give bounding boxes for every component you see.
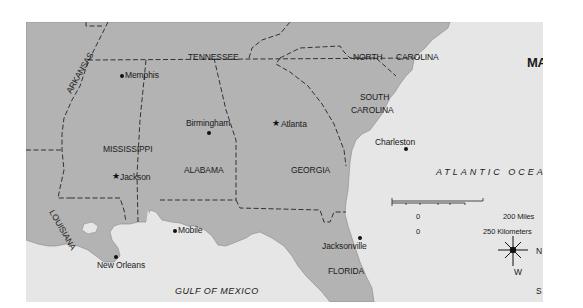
state-label-florida: FLORIDA (328, 266, 364, 276)
city-label-jackson: Jackson (120, 172, 150, 182)
scale-miles-start: 0 (416, 212, 420, 221)
scale-miles-end: 200 Miles (503, 212, 534, 221)
compass-south-label: S (536, 286, 542, 296)
scale-km-start: 0 (416, 227, 420, 236)
state-label-tennessee: TENNESSEE (188, 52, 239, 62)
water-label-gulf-of-mexico: GULF OF MEXICO (175, 286, 259, 296)
state-label-south-carolina-line2: CAROLINA (351, 105, 394, 115)
map-title: MAP B (527, 55, 543, 70)
city-marker-birmingham (207, 131, 211, 135)
capital-star-icon-jackson: ★ (112, 172, 120, 181)
scale-km-end: 250 Kilometers (483, 227, 532, 236)
state-label-north-carolina-line2: CAROLINA (396, 52, 439, 62)
map-frame: MAP B TENNESSEE NORTH CAROLINA ARKANSAS … (26, 22, 543, 302)
city-label-new-orleans: New Orleans (97, 260, 145, 270)
state-label-mississippi: MISSISSIPPI (103, 144, 152, 154)
city-marker-memphis (120, 74, 124, 78)
state-label-georgia: GEORGIA (291, 165, 330, 175)
city-label-memphis: Memphis (125, 70, 159, 80)
state-label-south-carolina-line1: SOUTH (360, 92, 389, 102)
state-label-north-carolina-line1: NORTH (353, 52, 383, 62)
scale-bar (392, 198, 483, 206)
city-label-jacksonville: Jacksonville (322, 241, 367, 251)
water-label-atlantic-ocean: ATLANTIC OCEAN (436, 167, 543, 177)
state-label-alabama: ALABAMA (184, 165, 223, 175)
city-label-atlanta: Atlanta (281, 119, 307, 129)
compass-rose (498, 236, 528, 266)
city-marker-new-orleans (114, 255, 118, 259)
city-label-mobile: Mobile (178, 225, 202, 235)
compass-north-label: N (536, 246, 542, 256)
city-marker-charleston (404, 147, 408, 151)
city-marker-jacksonville (358, 236, 362, 240)
city-marker-mobile (173, 229, 177, 233)
compass-west-label: W (514, 267, 522, 277)
city-label-birmingham: Birmingham (186, 118, 230, 128)
capital-star-icon-atlanta: ★ (272, 119, 280, 128)
city-label-charleston: Charleston (375, 137, 415, 147)
